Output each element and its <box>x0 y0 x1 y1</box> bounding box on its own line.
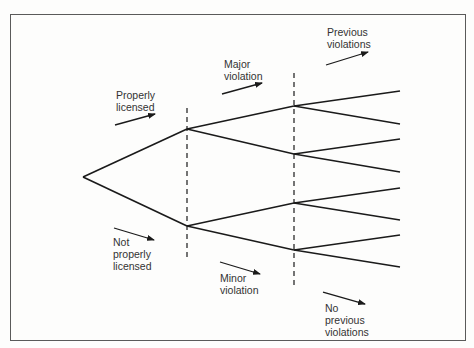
leaf-5 <box>294 188 400 203</box>
arrow-major-violation-icon <box>222 83 262 94</box>
branch-minor-violation-lower <box>187 226 294 250</box>
branch-major-violation-upper <box>187 106 294 129</box>
label-line: licensed <box>113 260 152 272</box>
leaf-6 <box>294 203 400 220</box>
leaf-7 <box>294 235 400 250</box>
leaf-8 <box>294 250 400 267</box>
leaf-3 <box>294 139 400 154</box>
leaf-2 <box>294 106 400 124</box>
label-line: violations <box>325 326 369 338</box>
label-no-previous-violations: No previous violations <box>325 302 369 338</box>
label-line: previous <box>325 314 369 326</box>
label-line: violations <box>327 38 371 50</box>
label-line: Not <box>113 236 152 248</box>
branch-minor-violation-upper <box>187 129 294 154</box>
branch-major-violation-lower <box>187 203 294 226</box>
label-line: violation <box>220 284 259 296</box>
label-line: Major <box>224 58 263 70</box>
label-line: properly <box>113 248 152 260</box>
label-line: Previous <box>327 26 371 38</box>
label-line: Minor <box>220 272 259 284</box>
label-line: violation <box>224 70 263 82</box>
branch-not-properly-licensed <box>83 177 187 226</box>
label-major-violation: Major violation <box>224 58 263 82</box>
label-line: Properly <box>116 89 155 101</box>
label-line: licensed <box>116 101 155 113</box>
label-previous-violations: Previous violations <box>327 26 371 50</box>
leaf-4 <box>294 154 400 172</box>
arrow-previous-violations-icon <box>326 52 368 65</box>
leaf-1 <box>294 91 400 106</box>
label-not-properly-licensed: Not properly licensed <box>113 236 152 272</box>
label-properly-licensed: Properly licensed <box>116 89 155 113</box>
branch-properly-licensed <box>83 129 187 177</box>
label-minor-violation: Minor violation <box>220 272 259 296</box>
arrow-properly-licensed-icon <box>115 114 155 125</box>
label-line: No <box>325 302 369 314</box>
